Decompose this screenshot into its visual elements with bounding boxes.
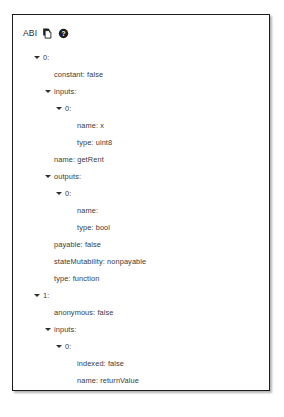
tree-row-inner: type: uint8 xyxy=(77,134,112,151)
caret-down-icon[interactable] xyxy=(45,175,51,178)
tree-row-label: inputs: xyxy=(54,321,76,338)
tree-row: indexed: false xyxy=(13,355,269,372)
tree-row: type: bool xyxy=(13,219,269,236)
tree-row-inner: constant: false xyxy=(54,66,103,83)
tree-row-label: 0: xyxy=(65,338,71,355)
tree-row-label: payable: false xyxy=(54,236,101,253)
tree-row-label: type: function xyxy=(54,270,99,287)
tree-row: name: xyxy=(13,202,269,219)
tree-row: anonymous: false xyxy=(13,304,269,321)
tree-row-inner: type: bool xyxy=(77,389,110,391)
tree-row-inner: stateMutability: nonpayable xyxy=(54,253,146,270)
tree-row-label: anonymous: false xyxy=(54,304,114,321)
tree-row-inner: name: getRent xyxy=(54,151,104,168)
tree-row-inner: type: bool xyxy=(77,219,110,236)
tree-row: payable: false xyxy=(13,236,269,253)
abi-tree: 0:constant: falseinputs:0:name: xtype: u… xyxy=(13,43,269,391)
tree-row: name: returnValue xyxy=(13,372,269,389)
tree-row-inner: indexed: false xyxy=(77,355,124,372)
caret-down-icon[interactable] xyxy=(45,90,51,93)
tree-row-inner: inputs: xyxy=(54,83,76,100)
tree-row-inner: 0: xyxy=(43,49,49,66)
tree-row-inner: inputs: xyxy=(54,321,76,338)
tree-row-label: type: uint8 xyxy=(77,134,112,151)
tree-row-inner: name: xyxy=(77,202,98,219)
tree-row-inner: type: function xyxy=(54,270,99,287)
caret-down-icon[interactable] xyxy=(56,192,62,195)
tree-row[interactable]: 0: xyxy=(13,49,269,66)
tree-row-inner: 0: xyxy=(65,185,71,202)
caret-down-icon[interactable] xyxy=(34,294,40,297)
tree-row[interactable]: outputs: xyxy=(13,168,269,185)
tree-row-label: 0: xyxy=(65,185,71,202)
tree-row[interactable]: inputs: xyxy=(13,83,269,100)
tree-row-label: type: bool xyxy=(77,219,110,236)
caret-down-icon[interactable] xyxy=(45,328,51,331)
tree-row-label: stateMutability: nonpayable xyxy=(54,253,146,270)
tree-row: type: function xyxy=(13,270,269,287)
tree-row-inner: payable: false xyxy=(54,236,101,253)
tree-row-label: type: bool xyxy=(77,389,110,391)
help-circle-icon[interactable]: ? xyxy=(58,28,69,39)
caret-down-icon[interactable] xyxy=(56,107,62,110)
copy-icon[interactable] xyxy=(42,28,53,39)
tree-row[interactable]: 1: xyxy=(13,287,269,304)
panel-header: ABI ? xyxy=(13,15,269,43)
tree-row-label: inputs: xyxy=(54,83,76,100)
tree-row[interactable]: 0: xyxy=(13,338,269,355)
tree-row: stateMutability: nonpayable xyxy=(13,253,269,270)
tree-row-label: name: returnValue xyxy=(77,372,139,389)
tree-row-label: indexed: false xyxy=(77,355,124,372)
caret-down-icon[interactable] xyxy=(56,345,62,348)
tree-row: name: getRent xyxy=(13,151,269,168)
tree-row[interactable]: inputs: xyxy=(13,321,269,338)
tree-row-label: name: x xyxy=(77,117,104,134)
tree-row-inner: anonymous: false xyxy=(54,304,114,321)
tree-row-inner: name: returnValue xyxy=(77,372,139,389)
tree-row-label: name: getRent xyxy=(54,151,104,168)
tree-row-inner: outputs: xyxy=(54,168,81,185)
tree-row: type: bool xyxy=(13,389,269,391)
svg-text:?: ? xyxy=(62,30,66,37)
tree-row: type: uint8 xyxy=(13,134,269,151)
caret-down-icon[interactable] xyxy=(34,56,40,59)
tree-row-label: 1: xyxy=(43,287,49,304)
tree-row[interactable]: 0: xyxy=(13,185,269,202)
tree-row-inner: name: x xyxy=(77,117,104,134)
tree-row-inner: 0: xyxy=(65,338,71,355)
tree-row-inner: 1: xyxy=(43,287,49,304)
tree-row-label: 0: xyxy=(43,49,49,66)
tree-row-label: name: xyxy=(77,202,98,219)
tree-row[interactable]: 0: xyxy=(13,100,269,117)
panel-title: ABI xyxy=(23,29,37,38)
tree-row-label: 0: xyxy=(65,100,71,117)
tree-row: name: x xyxy=(13,117,269,134)
tree-row: constant: false xyxy=(13,66,269,83)
abi-panel: ABI ? 0:constant: falseinputs:0:name: xt… xyxy=(12,14,270,391)
tree-row-inner: 0: xyxy=(65,100,71,117)
tree-row-label: constant: false xyxy=(54,66,103,83)
tree-row-label: outputs: xyxy=(54,168,81,185)
